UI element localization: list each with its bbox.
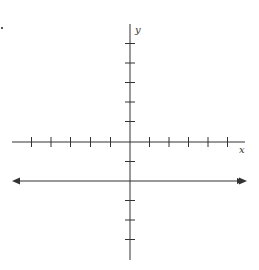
right-arrowhead-icon xyxy=(239,178,247,185)
left-arrowhead-icon xyxy=(12,178,20,185)
y-axis-label: y xyxy=(134,24,141,35)
coordinate-plane: y x xyxy=(0,0,259,270)
x-axis-label: x xyxy=(239,144,245,155)
stray-mark xyxy=(1,27,3,29)
